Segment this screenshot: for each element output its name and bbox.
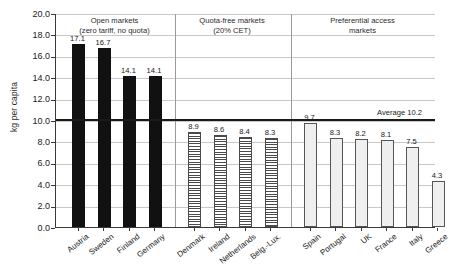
bar-value-label: 8.4 — [231, 128, 259, 136]
y-axis-tick-label: 12.0 — [4, 95, 50, 104]
y-axis-tick-label: 0.0 — [4, 224, 50, 233]
gridline — [56, 100, 435, 101]
group-header-3: Preferential access markets — [290, 16, 435, 36]
x-axis-tick-mark — [78, 228, 79, 231]
y-axis-tick-mark — [51, 142, 55, 143]
y-axis-tick-label: 18.0 — [4, 31, 50, 40]
bar[interactable] — [214, 135, 227, 227]
y-axis-tick-mark — [51, 121, 55, 122]
group-header-2: Quota-free markets (20% CET) — [174, 16, 290, 36]
y-axis-tick-mark — [51, 14, 55, 15]
x-axis-tick-mark — [129, 228, 130, 231]
gridline — [56, 121, 435, 122]
bar[interactable] — [330, 138, 343, 227]
y-axis-tick-mark — [51, 57, 55, 58]
bar[interactable] — [432, 181, 445, 227]
bar-value-label: 7.5 — [398, 138, 426, 146]
bar-value-label: 8.6 — [205, 126, 233, 134]
y-axis-tick-label: 8.0 — [4, 138, 50, 147]
bar[interactable] — [265, 138, 278, 227]
y-axis-tick-mark — [51, 185, 55, 186]
bar-value-label: 8.9 — [180, 123, 208, 131]
bar-value-label: 8.1 — [372, 131, 400, 139]
x-axis-tick-mark — [270, 228, 271, 231]
bar[interactable] — [149, 76, 162, 227]
bar[interactable] — [98, 48, 111, 227]
bar[interactable] — [239, 137, 252, 227]
gridline — [56, 14, 435, 15]
x-axis-tick-mark — [219, 228, 220, 231]
x-axis-tick-mark — [154, 228, 155, 231]
average-label: Average 10.2 — [377, 108, 422, 117]
bar-value-label: 16.7 — [89, 39, 117, 47]
bar-value-label: 14.1 — [115, 67, 143, 75]
y-axis-tick-mark — [51, 100, 55, 101]
y-axis-tick-mark — [51, 78, 55, 79]
gridline — [56, 57, 435, 58]
bar[interactable] — [123, 76, 136, 227]
bar-value-label: 4.3 — [423, 172, 451, 180]
bar-value-label: 17.1 — [64, 35, 92, 43]
bar[interactable] — [188, 132, 201, 227]
bar-value-label: 8.3 — [256, 129, 284, 137]
y-axis-tick-label: 16.0 — [4, 52, 50, 61]
bar[interactable] — [406, 147, 419, 227]
gridline — [56, 78, 435, 79]
y-axis-tick-labels: 20.018.016.014.012.010.08.06.04.02.00.0 — [0, 0, 50, 280]
average-line — [56, 119, 435, 121]
y-axis-tick-label: 20.0 — [4, 10, 50, 19]
bar[interactable] — [72, 44, 85, 227]
bar-value-label: 9.7 — [296, 114, 324, 122]
bar-value-label: 8.3 — [321, 129, 349, 137]
x-axis-tick-mark — [437, 228, 438, 231]
x-axis-tick-mark — [335, 228, 336, 231]
bar[interactable] — [355, 139, 368, 227]
bar-value-label: 8.2 — [347, 130, 375, 138]
y-axis-tick-label: 10.0 — [4, 117, 50, 126]
y-axis-tick-label: 14.0 — [4, 74, 50, 83]
y-axis-tick-mark — [51, 164, 55, 165]
y-axis-tick-label: 6.0 — [4, 159, 50, 168]
bar-value-label: 14.1 — [140, 67, 168, 75]
group-header-1: Open markets (zero tariff, no quota) — [55, 16, 174, 36]
y-axis-tick-label: 2.0 — [4, 202, 50, 211]
y-axis-tick-mark — [51, 228, 55, 229]
y-axis-tick-mark — [51, 207, 55, 208]
x-axis-tick-mark — [386, 228, 387, 231]
bar[interactable] — [381, 140, 394, 227]
x-axis-tick-mark — [194, 228, 195, 231]
x-axis-tick-mark — [103, 228, 104, 231]
x-axis-tick-mark — [245, 228, 246, 231]
x-axis-tick-mark — [310, 228, 311, 231]
bar[interactable] — [304, 123, 317, 227]
x-axis-tick-mark — [361, 228, 362, 231]
x-axis-tick-mark — [412, 228, 413, 231]
y-axis-tick-label: 4.0 — [4, 181, 50, 190]
